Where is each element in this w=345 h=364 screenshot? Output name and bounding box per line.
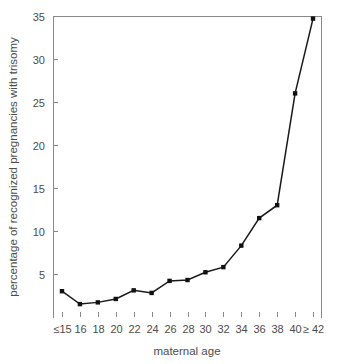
data-point-marker [96, 300, 100, 304]
x-tick-label: 18 [92, 323, 104, 335]
y-tick-label: 10 [33, 226, 45, 238]
x-tick-label: 36 [253, 323, 265, 335]
y-tick-label: 20 [33, 140, 45, 152]
x-tick-label: 30 [199, 323, 211, 335]
x-tick-label: 26 [164, 323, 176, 335]
data-point-marker [275, 203, 279, 207]
data-point-marker [132, 288, 136, 292]
series-line-trisomy [62, 19, 313, 305]
x-axis-ticks [63, 312, 314, 317]
data-point-marker [149, 291, 153, 295]
series-markers [60, 16, 315, 306]
chart-figure: 5101520253035 ≤1516182022242628303234363… [0, 0, 345, 364]
trisomy-vs-maternal-age-line-chart: 5101520253035 ≤1516182022242628303234363… [0, 0, 345, 364]
data-point-marker [78, 302, 82, 306]
data-series-group [60, 16, 315, 306]
data-point-marker [114, 297, 118, 301]
x-tick-label: ≤15 [53, 323, 71, 335]
x-tick-label: 16 [74, 323, 86, 335]
axis-frame-path [54, 17, 322, 318]
data-point-marker [203, 270, 207, 274]
y-tick-label: 15 [33, 183, 45, 195]
data-point-marker [293, 91, 297, 95]
data-point-marker [239, 243, 243, 247]
x-tick-label: ≥ 42 [303, 323, 324, 335]
y-axis-title: percentage of recognized pregnancies wit… [7, 37, 19, 297]
x-tick-label: 40 [289, 323, 301, 335]
x-tick-label: 20 [110, 323, 122, 335]
data-point-marker [167, 279, 171, 283]
x-axis-title: maternal age [153, 345, 220, 357]
data-point-marker [311, 16, 315, 20]
y-axis-tick-labels: 5101520253035 [33, 11, 45, 281]
y-tick-label: 5 [39, 269, 45, 281]
data-point-marker [221, 265, 225, 269]
y-tick-label: 35 [33, 11, 45, 23]
x-tick-label: 24 [146, 323, 158, 335]
x-tick-label: 32 [217, 323, 229, 335]
x-tick-label: 34 [235, 323, 247, 335]
data-point-marker [60, 289, 64, 293]
data-point-marker [185, 278, 189, 282]
x-axis-tick-labels: ≤1516182022242628303234363840≥ 42 [53, 323, 324, 335]
axis-frame [54, 17, 322, 318]
x-tick-label: 38 [271, 323, 283, 335]
x-tick-label: 28 [182, 323, 194, 335]
y-tick-label: 30 [33, 54, 45, 66]
y-tick-label: 25 [33, 97, 45, 109]
x-tick-label: 22 [128, 323, 140, 335]
data-point-marker [257, 216, 261, 220]
